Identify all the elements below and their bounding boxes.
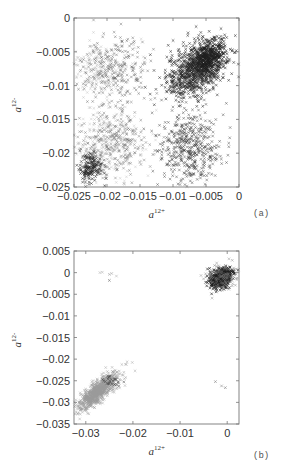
panel-label-a: (a)	[253, 209, 269, 219]
x-tick-labels-a: −0.025−0.02−0.015−0.01−0.0050	[57, 190, 242, 202]
y-tick-label: −0.025	[36, 375, 70, 387]
plot-canvas-a: −0.025−0.02−0.015−0.01−0.0050 0−0.005−0.…	[0, 0, 281, 234]
x-tick-label: −0.005	[189, 190, 223, 202]
panel-label-b: (b)	[253, 451, 269, 461]
scatter-plot-b: −0.03−0.02−0.010 0.0050−0.005−0.01−0.015…	[0, 234, 281, 468]
y-tick-labels-a: 0−0.005−0.01−0.015−0.02−0.025	[36, 12, 70, 193]
y-tick-label: −0.005	[36, 46, 70, 58]
y-axis-label-b: a12-	[10, 332, 23, 348]
data-points-a	[73, 19, 240, 188]
y-tick-label: 0	[64, 12, 70, 24]
y-tick-label: −0.015	[36, 113, 70, 125]
y-axis-label-a: a12-	[10, 97, 23, 113]
x-tick-labels-b: −0.03−0.02−0.010	[72, 427, 230, 439]
x-tick-label: −0.015	[123, 190, 157, 202]
data-points-b	[73, 258, 239, 421]
y-tick-label: −0.005	[36, 288, 70, 300]
x-tick-label: −0.01	[159, 190, 187, 202]
x-tick-label: 0	[236, 190, 242, 202]
y-tick-label: −0.02	[42, 353, 70, 365]
y-tick-label: −0.03	[42, 396, 70, 408]
scatter-plot-a: −0.025−0.02−0.015−0.01−0.0050 0−0.005−0.…	[0, 0, 281, 234]
x-axis-label-b: a12+	[149, 444, 166, 457]
y-tick-label: 0.005	[42, 245, 70, 257]
x-tick-label: −0.02	[119, 427, 147, 439]
y-tick-label: −0.01	[42, 80, 70, 92]
plot-canvas-b: −0.03−0.02−0.010 0.0050−0.005−0.01−0.015…	[0, 234, 281, 468]
y-tick-label: 0	[64, 267, 70, 279]
x-tick-label: −0.01	[166, 427, 194, 439]
x-axis-label-a: a12+	[149, 207, 166, 220]
y-tick-label: −0.01	[42, 310, 70, 322]
y-tick-label: −0.015	[36, 332, 70, 344]
x-tick-label: −0.02	[93, 190, 121, 202]
y-tick-label: −0.02	[42, 147, 70, 159]
x-tick-label: −0.03	[72, 427, 100, 439]
y-tick-labels-b: 0.0050−0.005−0.01−0.015−0.02−0.025−0.03−…	[36, 245, 70, 430]
y-tick-label: −0.025	[36, 181, 70, 193]
y-tick-label: −0.035	[36, 418, 70, 430]
x-tick-label: 0	[224, 427, 230, 439]
